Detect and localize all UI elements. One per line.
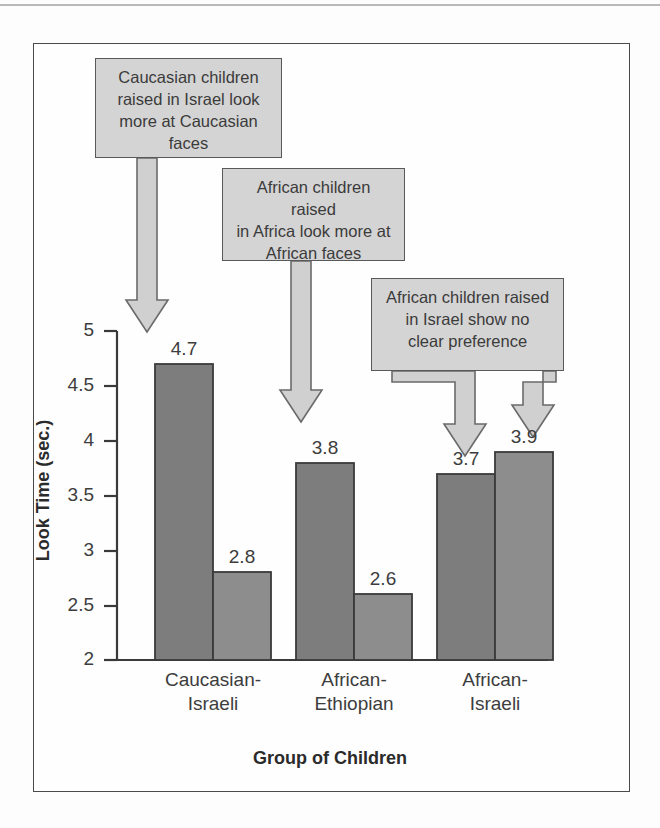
x-category-african-ethiopian: African- Ethiopian bbox=[284, 668, 424, 716]
bar-value-4-7: 4.7 bbox=[154, 338, 214, 360]
bar-value-2-8: 2.8 bbox=[212, 546, 272, 568]
x-category-line-1: Caucasian- bbox=[143, 668, 283, 692]
x-category-line-2: Israeli bbox=[425, 692, 565, 716]
annotation-line-3: more at Caucasian faces bbox=[106, 111, 271, 155]
annotation-line-3: African faces bbox=[233, 243, 394, 265]
y-tick-label-4: 4 bbox=[52, 429, 94, 451]
y-tick-label-3.5: 3.5 bbox=[52, 484, 94, 506]
x-category-line-2: Ethiopian bbox=[284, 692, 424, 716]
annotation-line-2: in Israel show no bbox=[382, 309, 553, 331]
figure-page: 5 4.5 4 3.5 3 2.5 2 4.7 2.8 3.8 2.6 3.7 … bbox=[0, 0, 660, 828]
annotation-callout-african-israeli: African children raised in Israel show n… bbox=[371, 278, 564, 371]
annotation-line-1: African children raised bbox=[382, 287, 553, 309]
x-category-caucasian-israeli: Caucasian- Israeli bbox=[143, 668, 283, 716]
x-category-african-israeli: African- Israeli bbox=[425, 668, 565, 716]
bar-value-3-8: 3.8 bbox=[295, 437, 355, 459]
x-axis-title: Group of Children bbox=[0, 748, 660, 769]
x-category-line-2: Israeli bbox=[143, 692, 283, 716]
bar-value-3-7: 3.7 bbox=[436, 448, 496, 470]
annotation-line-2: raised in Israel look bbox=[106, 89, 271, 111]
y-axis-title: Look Time (sec.) bbox=[33, 396, 54, 586]
y-tick-label-3: 3 bbox=[52, 539, 94, 561]
y-tick-label-4.5: 4.5 bbox=[52, 374, 94, 396]
y-tick-label-2: 2 bbox=[52, 648, 94, 670]
annotation-line-2: in Africa look more at bbox=[233, 221, 394, 243]
x-category-line-1: African- bbox=[284, 668, 424, 692]
bar-value-3-9: 3.9 bbox=[494, 426, 554, 448]
annotation-line-1: Caucasian children bbox=[106, 67, 271, 89]
y-tick-label-2.5: 2.5 bbox=[52, 594, 94, 616]
annotation-line-3: clear preference bbox=[382, 331, 553, 353]
x-category-line-1: African- bbox=[425, 668, 565, 692]
y-tick-label-5: 5 bbox=[52, 319, 94, 341]
bar-value-2-6: 2.6 bbox=[353, 568, 413, 590]
page-top-rule bbox=[0, 4, 660, 6]
annotation-line-1: African children raised bbox=[233, 177, 394, 221]
annotation-callout-caucasian-israeli: Caucasian children raised in Israel look… bbox=[95, 58, 282, 158]
annotation-callout-african-ethiopian: African children raised in Africa look m… bbox=[222, 168, 405, 261]
